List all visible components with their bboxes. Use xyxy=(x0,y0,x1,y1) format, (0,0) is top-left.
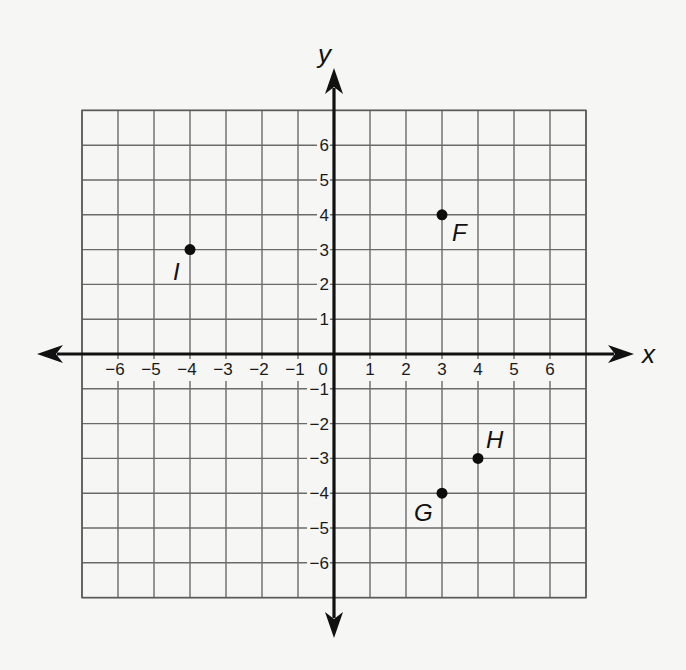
y-tick-label: −5 xyxy=(310,519,329,538)
x-tick-label: 4 xyxy=(473,360,482,379)
y-tick-label: 1 xyxy=(320,310,329,329)
coordinate-plane: −6−5−4−3−2−1123456654321−1−2−3−4−5−60 FG… xyxy=(0,0,686,670)
x-axis-label: x xyxy=(640,339,656,369)
x-tick-label: −4 xyxy=(177,360,196,379)
x-tick-label: 1 xyxy=(365,360,374,379)
y-axis-label: y xyxy=(316,39,333,69)
origin-label: 0 xyxy=(318,360,327,379)
y-tick-label: −2 xyxy=(310,415,329,434)
point-marker xyxy=(185,244,196,255)
x-tick-label: −1 xyxy=(285,360,304,379)
x-tick-label: 3 xyxy=(437,360,446,379)
y-tick-label: −3 xyxy=(310,449,329,468)
y-tick-label: 2 xyxy=(320,275,329,294)
x-tick-label: 6 xyxy=(545,360,554,379)
axes xyxy=(37,68,634,638)
y-tick-label: −4 xyxy=(310,484,329,503)
x-tick-label: 5 xyxy=(509,360,518,379)
x-tick-label: 2 xyxy=(401,360,410,379)
point-label: H xyxy=(486,426,504,453)
y-tick-label: −6 xyxy=(310,554,329,573)
x-tick-label: −3 xyxy=(213,360,232,379)
point-marker xyxy=(437,209,448,220)
y-tick-label: 3 xyxy=(320,241,329,260)
point-marker xyxy=(437,488,448,499)
point-marker xyxy=(473,453,484,464)
point-label: G xyxy=(414,499,433,526)
y-tick-label: 6 xyxy=(320,136,329,155)
x-tick-label: −6 xyxy=(105,360,124,379)
y-tick-label: −1 xyxy=(310,380,329,399)
point-label: I xyxy=(173,258,180,285)
y-tick-label: 4 xyxy=(320,206,329,225)
point-label: F xyxy=(452,219,468,246)
y-tick-label: 5 xyxy=(320,171,329,190)
x-tick-label: −5 xyxy=(141,360,160,379)
x-tick-label: −2 xyxy=(249,360,268,379)
coordinate-grid-svg: −6−5−4−3−2−1123456654321−1−2−3−4−5−60 FG… xyxy=(0,0,686,670)
